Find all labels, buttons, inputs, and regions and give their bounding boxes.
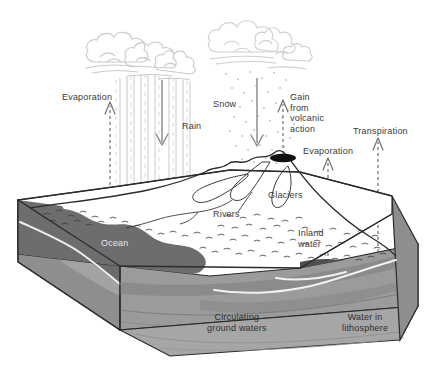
label-ocean: Ocean	[101, 238, 129, 249]
label-transpiration: Transpiration	[353, 126, 408, 137]
label-rivers: Rivers	[213, 209, 240, 220]
label-water-in-lithosphere: Water in lithosphere	[342, 312, 388, 333]
water-cycle-diagram: Evaporation Rain Snow Gain from volcanic…	[0, 0, 440, 380]
snow-cloud-icon	[208, 21, 312, 69]
rain-cloud-icon	[86, 32, 195, 80]
arrow-rain	[156, 80, 168, 145]
label-inland-water: Inland water	[298, 228, 324, 249]
label-snow: Snow	[213, 99, 236, 110]
volcano-crater-icon	[270, 154, 296, 162]
label-evaporation-ocean: Evaporation	[62, 92, 112, 103]
label-rain: Rain	[182, 121, 201, 132]
label-evaporation-inland: Evaporation	[303, 146, 353, 157]
label-gain-volcanic: Gain from volcanic action	[290, 92, 324, 134]
arrow-snow	[251, 78, 263, 146]
label-circulating-ground-waters: Circulating ground waters	[207, 312, 267, 333]
label-glaciers: Glaciers	[268, 190, 303, 201]
